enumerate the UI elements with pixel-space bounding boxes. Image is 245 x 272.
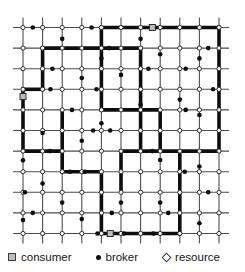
resource-node [158,87,162,91]
resource-node [197,67,201,71]
resource-node [217,149,221,153]
resource-node [21,108,25,112]
resource-node [80,67,84,71]
legend: consumer broker resource [0,246,245,268]
resource-node [119,190,123,194]
resource-node [60,190,64,194]
resource-node [41,87,45,91]
broker-node [197,113,202,118]
resource-node [197,170,201,174]
resource-node [217,67,221,71]
broker-node [197,221,202,226]
broker-node [211,87,216,92]
broker-node [122,231,127,236]
resource-node [119,46,123,50]
resource-node [158,149,162,153]
resource-node [60,87,64,91]
broker-node [146,66,151,71]
resource-node [21,231,25,235]
resource-node [158,108,162,112]
broker-node [80,76,85,81]
broker-node [119,73,124,78]
resource-node [99,25,103,29]
resource-node [178,108,182,112]
broker-node [138,37,143,42]
legend-item-consumer: consumer [8,251,72,263]
resource-node [158,170,162,174]
resource-node [217,108,221,112]
broker-node [151,231,156,236]
resource-node [60,128,64,132]
resource-node [21,46,25,50]
resource-node [41,190,45,194]
resource-node [217,190,221,194]
broker-node [80,139,85,144]
broker-node [107,46,112,51]
broker-node [21,218,26,223]
resource-node [99,190,103,194]
resource-node [197,128,201,132]
resource-node [99,128,103,132]
resource-node [41,149,45,153]
resource-node [80,128,84,132]
resource-node [217,231,221,235]
resource-node [139,67,143,71]
resource-node [197,87,201,91]
resource-node [41,108,45,112]
consumer-icon [8,253,16,261]
resource-node [119,149,123,153]
resource-node [60,211,64,215]
resource-node [197,231,201,235]
resource-node [41,231,45,235]
broker-node [206,46,211,51]
resource-node [197,190,201,194]
broker-node [80,217,85,222]
resource-node [217,87,221,91]
resource-node [99,149,103,153]
consumer-node [107,231,113,237]
resource-node [197,108,201,112]
legend-label-resource: resource [175,251,220,263]
broker-node [197,164,202,169]
resource-node [178,67,182,71]
broker-node [48,87,53,92]
resource-node [139,211,143,215]
resource-node [158,128,162,132]
broker-node [206,190,211,195]
broker-node [60,37,65,42]
resource-node [139,149,143,153]
broker-node [183,108,188,113]
resource-node [41,211,45,215]
resource-node [197,25,201,29]
legend-label-consumer: consumer [21,251,72,263]
resource-node [178,25,182,29]
resource-node [119,108,123,112]
resource-node [80,46,84,50]
resource-node [217,211,221,215]
broker-node [158,52,163,57]
resource-node [119,25,123,29]
resource-node [60,46,64,50]
broker-node [89,25,94,30]
resource-node [178,190,182,194]
resource-node [119,67,123,71]
legend-item-resource: resource [163,251,220,263]
broker-node [182,169,187,174]
resource-node [80,231,84,235]
broker-node [23,190,28,195]
resource-node [99,231,103,235]
resource-node [158,190,162,194]
resource-node [80,190,84,194]
broker-icon [96,255,101,260]
resource-node [178,46,182,50]
broker-node [31,211,36,216]
resource-node [178,211,182,215]
resource-node [217,25,221,29]
resource-node [21,211,25,215]
broker-node [183,66,188,71]
resource-node [60,108,64,112]
resource-node [119,87,123,91]
broker-node [197,56,202,61]
consumer-node [20,94,26,100]
legend-label-broker: broker [106,251,139,263]
